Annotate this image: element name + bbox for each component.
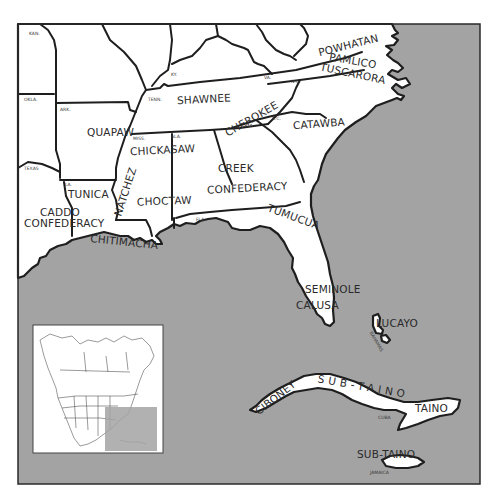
- state-label-va: VA.: [264, 75, 271, 80]
- state-label-texas: TEXAS: [23, 166, 39, 171]
- state-label-okla: OKLA.: [24, 97, 38, 102]
- state-label-fla: FLA.: [196, 217, 206, 222]
- inset-locator-map: [33, 325, 163, 453]
- state-label-kan: KAN.: [29, 31, 40, 36]
- label-calusa: CALUSA: [296, 299, 339, 311]
- label-quapaw: QUAPAW: [87, 126, 134, 138]
- southeast-tribes-map: POWHATAN PAMLICO TUSCARORA SHAWNEE CHERO…: [0, 0, 496, 500]
- state-label-tenn: TENN.: [147, 97, 162, 102]
- state-label-nc: N.C.: [291, 79, 300, 84]
- state-label-ark: ARK.: [60, 107, 71, 112]
- state-label-sc: S.C.: [272, 116, 281, 121]
- label-choctaw: CHOCTAW: [137, 194, 193, 208]
- state-label-la: LA.: [65, 182, 72, 187]
- label-lucayo: LUCAYO: [376, 317, 418, 329]
- state-label-miss: MISS.: [133, 136, 145, 141]
- label-seminole: SEMINOLE: [305, 283, 361, 295]
- state-label-ga: GA.: [246, 123, 254, 128]
- label-tunica: TUNICA: [67, 188, 109, 200]
- inset-highlight-region: [105, 407, 157, 451]
- label-taino: TAINO: [414, 402, 448, 414]
- label-caddo-confederacy: CONFEDERACY: [24, 217, 105, 229]
- state-label-jamaica: JAMAICA: [369, 470, 390, 475]
- state-label-cuba: CUBA: [378, 415, 392, 420]
- label-creek: CREEK: [218, 162, 255, 174]
- state-label-ala: ALA.: [171, 134, 181, 139]
- state-label-ky: KY.: [171, 72, 177, 77]
- label-sub-taino-jamaica: SUB-TAINO: [357, 448, 415, 460]
